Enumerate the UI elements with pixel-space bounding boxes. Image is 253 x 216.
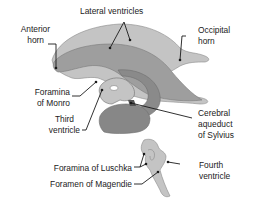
interthalamic-adhesion xyxy=(110,86,118,91)
label-aqueduct-line2: aqueduct xyxy=(198,119,232,129)
label-aqueduct-line1: Cerebral xyxy=(198,108,230,118)
lower-mass xyxy=(99,104,150,134)
label-foramina-luschka: Foramina of Luschka xyxy=(40,163,132,173)
leader-monro xyxy=(72,82,96,96)
leader-luschka xyxy=(134,154,146,167)
label-aqueduct-line3: of Sylvius xyxy=(198,130,234,140)
label-foramina-monro-line2: of Monro xyxy=(20,98,70,108)
label-anterior-horn-line1: Anterior xyxy=(14,24,50,34)
leader-fourth xyxy=(168,162,180,164)
label-foramina-monro-line1: Foramina xyxy=(20,87,70,97)
label-foramen-magendie: Foramen of Magendie xyxy=(40,179,132,189)
label-third-ventricle-line1: Third xyxy=(30,114,74,124)
label-third-ventricle-line2: ventricle xyxy=(30,125,80,135)
label-lateral-ventricles: Lateral ventricles xyxy=(80,6,143,16)
label-occipital-horn-line2: horn xyxy=(198,36,215,46)
label-fourth-ventricle-line1: Fourth xyxy=(199,160,223,170)
fourth-ventricle xyxy=(141,139,170,197)
label-anterior-horn-line2: horn xyxy=(14,35,44,45)
leader-third xyxy=(82,90,102,130)
label-occipital-horn-line1: Occipital xyxy=(198,25,230,35)
label-fourth-ventricle-line2: ventricle xyxy=(199,171,230,181)
